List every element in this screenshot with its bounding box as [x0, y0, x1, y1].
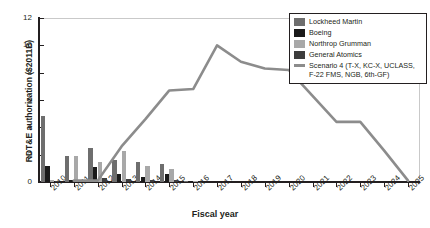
legend-item-label: General Atomics [309, 50, 422, 59]
swatch-boeing-icon [294, 29, 305, 37]
legend-item[interactable]: Scenario 4 (T-X, KC-X, UCLASS, F-22 FMS,… [294, 61, 422, 79]
y-tick-label: 8 [2, 69, 32, 77]
swatch-lockheed-martin-icon [294, 18, 305, 26]
legend-item-label: Boeing [309, 28, 422, 37]
legend-item[interactable]: General Atomics [294, 50, 422, 59]
legend-item-label: Scenario 4 (T-X, KC-X, UCLASS, F-22 FMS,… [309, 61, 422, 79]
x-axis-title: Fiscal year [0, 209, 430, 219]
swatch-northrop-grumman-icon [294, 40, 305, 48]
y-tick-label: 10 [2, 41, 32, 49]
y-tick-label: 4 [2, 123, 32, 131]
swatch-scenario-4-icon [294, 64, 305, 67]
swatch-general-atomics-icon [294, 51, 305, 59]
legend-item[interactable]: Boeing [294, 28, 422, 37]
chart-container: RDT&E authorization ($2011B) 024681012 2… [0, 0, 430, 228]
chart-legend: Lockheed MartinBoeingNorthrop GrummanGen… [289, 13, 427, 84]
y-tick-label: 2 [2, 151, 32, 159]
y-tick-label: 12 [2, 14, 32, 22]
legend-item-label: Lockheed Martin [309, 17, 422, 26]
y-tick-label: 6 [2, 96, 32, 104]
legend-item[interactable]: Lockheed Martin [294, 17, 422, 26]
y-tick-mark [38, 182, 44, 183]
legend-item-label: Northrop Grumman [309, 39, 422, 48]
legend-item[interactable]: Northrop Grumman [294, 39, 422, 48]
y-tick-label: 0 [2, 178, 32, 186]
